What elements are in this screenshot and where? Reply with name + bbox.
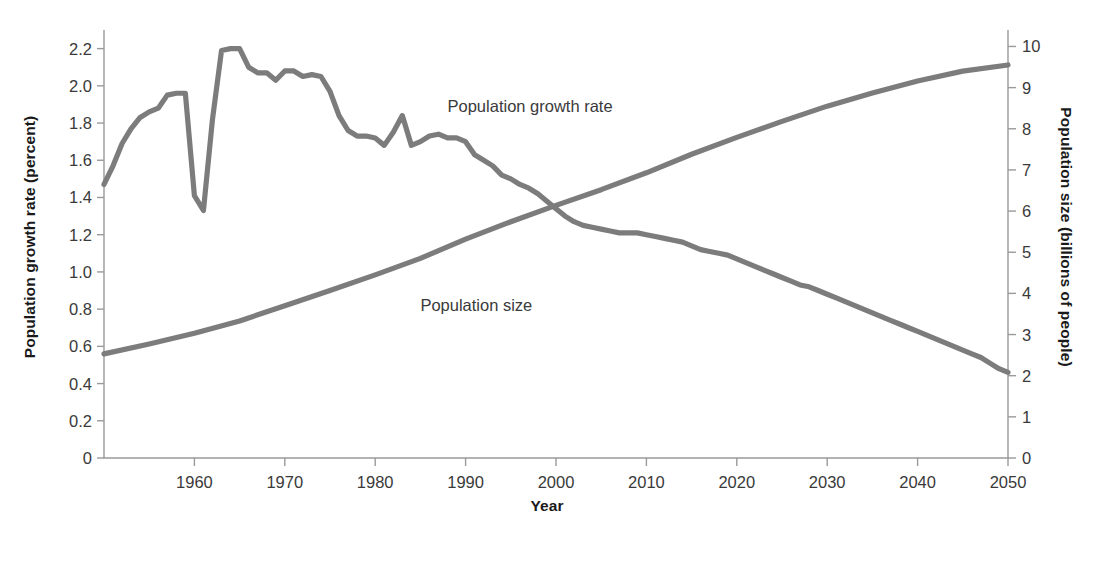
x-tick-label: 1970 [266,473,303,491]
left-axis-title: Population growth rate (percent) [21,77,39,397]
left-tick-label: 1.2 [69,226,92,244]
x-tick-label: 2030 [809,473,846,491]
x-tick-label: 2020 [718,473,755,491]
left-tick-label: 1.6 [69,151,92,169]
left-tick-label: 1.4 [69,188,92,206]
right-tick-label: 9 [1022,79,1031,97]
right-tick-label: 5 [1022,243,1031,261]
left-tick-label: 2.0 [69,77,92,95]
left-tick-label: 0 [83,449,92,467]
right-tick-label: 0 [1022,449,1031,467]
x-tick-label: 2000 [538,473,575,491]
left-tick-label: 1.8 [69,114,92,132]
population-chart-figure: 00.20.40.60.81.01.21.41.61.82.02.2 01234… [0,0,1094,564]
left-tick-label: 2.2 [69,40,92,58]
series-annotations: Population growth ratePopulation size [420,97,612,314]
right-tick-label: 3 [1022,326,1031,344]
right-axis-ticks: 012345678910 [1008,37,1040,467]
x-axis-title: Year [0,497,1094,515]
right-tick-label: 1 [1022,408,1031,426]
x-tick-label: 1990 [447,473,484,491]
left-axis-ticks: 00.20.40.60.81.01.21.41.61.82.02.2 [69,40,104,467]
left-tick-label: 0.8 [69,300,92,318]
right-tick-label: 6 [1022,202,1031,220]
left-tick-label: 0.4 [69,375,92,393]
right-tick-label: 7 [1022,161,1031,179]
x-tick-label: 2010 [628,473,665,491]
left-tick-label: 1.0 [69,263,92,281]
x-axis-ticks: 1960197019801990200020102020203020402050 [176,458,1026,491]
right-tick-label: 4 [1022,284,1031,302]
right-tick-label: 8 [1022,120,1031,138]
x-tick-label: 1980 [357,473,394,491]
x-tick-label: 2050 [990,473,1027,491]
left-tick-label: 0.6 [69,337,92,355]
chart-plot-area: 00.20.40.60.81.01.21.41.61.82.02.2 01234… [0,0,1094,564]
x-tick-label: 1960 [176,473,213,491]
right-axis-title: Population size (billions of people) [1057,77,1075,397]
annotation-population-growth-rate: Population growth rate [448,97,613,115]
right-tick-label: 2 [1022,367,1031,385]
right-tick-label: 10 [1022,37,1040,55]
left-tick-label: 0.2 [69,412,92,430]
annotation-population-size: Population size [420,296,532,314]
x-tick-label: 2040 [899,473,936,491]
